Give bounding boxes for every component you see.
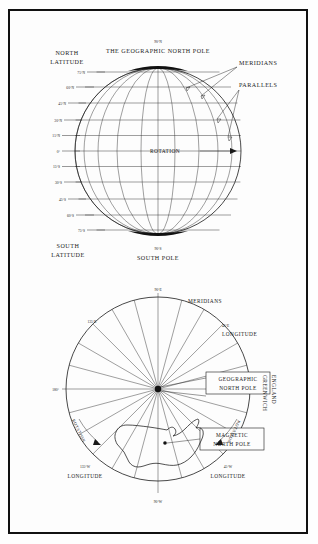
latitude-tick-30n: 30°N: [54, 119, 62, 123]
united-states-outline: [115, 419, 203, 467]
longitude-label-lower-left: LONGITUDE: [67, 473, 102, 479]
greenwich-label-line1: GREENWICH: [262, 375, 268, 411]
magnetic-pole-dot: [163, 441, 167, 445]
parallels-label: PARALLELS: [239, 82, 278, 88]
latitude-tick-0: 0°: [57, 150, 61, 154]
north-latitude-label-line2: LATITUDE: [50, 59, 83, 65]
latitude-tick-60n: 60°N: [66, 86, 74, 90]
polar-figure: GEOGRAPHIC NORTH POLE MAGNETIC NORTH POL…: [10, 279, 306, 536]
globe-figure: 75°N 60°N 45°N 30°N 15°N 0° 15°S 30°S 45…: [10, 11, 306, 279]
latitude-tick-30s: 30°S: [55, 181, 62, 185]
latitude-tick-75n: 75°N: [77, 71, 85, 75]
north-pole-caption: THE GEOGRAPHIC NORTH POLE: [106, 48, 210, 54]
geographic-pole-leader: [160, 378, 206, 396]
latitude-tick-75s: 75°S: [78, 229, 85, 233]
polar-tick-left: 180°: [52, 388, 59, 392]
greenwich-label-line2: ENGLAND: [271, 375, 277, 404]
polar-tick-upper-right: 45°E: [222, 324, 230, 328]
polar-tick-lower-right: 45°W: [224, 465, 233, 469]
polar-tick-upper-left: 135°E: [87, 320, 97, 324]
screenshot-root: 75°N 60°N 45°N 30°N 15°N 0° 15°S 30°S 45…: [0, 0, 318, 544]
north-latitude-label-line1: NORTH: [55, 50, 78, 56]
polar-tick-top: 90°E: [154, 288, 162, 292]
south-latitude-label-line1: SOUTH: [57, 243, 80, 249]
globe-latitude-tick-labels: 75°N 60°N 45°N 30°N 15°N 0° 15°S 30°S 45…: [52, 71, 85, 233]
south-pole-degree: 90°S: [154, 247, 161, 251]
polar-rotation-label-left: ROTATION: [71, 418, 87, 443]
latitude-tick-45s: 45°S: [59, 198, 66, 202]
north-pole-degree: 90°N: [154, 40, 162, 44]
polar-tick-lower-left: 135°W: [80, 465, 91, 469]
latitude-tick-15s: 15°S: [53, 165, 60, 169]
globe-rotation-label: ROTATION: [150, 148, 180, 154]
longitude-label-lower-right: LONGITUDE: [210, 473, 245, 479]
globe-rotation-arrow: [200, 148, 237, 154]
meridians-label: MERIDIANS: [239, 60, 277, 66]
latitude-tick-45n: 45°N: [58, 102, 66, 106]
polar-tick-bottom: 90°W: [154, 500, 163, 504]
latitude-tick-60s: 60°S: [67, 214, 74, 218]
polar-meridians-label: MERIDIANS: [188, 298, 222, 304]
figure-frame: 75°N 60°N 45°N 30°N 15°N 0° 15°S 30°S 45…: [8, 9, 308, 534]
longitude-label-upper-right: LONGITUDE: [222, 331, 257, 337]
geographic-pole-label-line2: NORTH POLE: [219, 385, 257, 391]
south-latitude-label-line2: LATITUDE: [51, 252, 84, 258]
geographic-pole-label-line1: GEOGRAPHIC: [218, 376, 257, 382]
south-pole-caption: SOUTH POLE: [137, 255, 179, 261]
latitude-tick-15n: 15°N: [52, 134, 60, 138]
parallels-leader-lines: [217, 90, 239, 141]
